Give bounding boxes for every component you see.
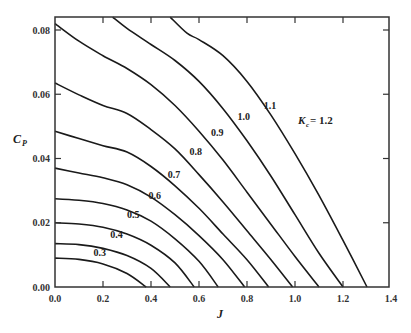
kc-annotation-main: K — [297, 114, 306, 126]
y-axis-title-main: C — [13, 132, 22, 146]
y-tick-label: 0.08 — [33, 25, 51, 36]
curve-label-1-0: 1.0 — [237, 111, 250, 122]
x-tick-label: 0.6 — [193, 293, 206, 304]
curve-label-0-6: 0.6 — [149, 190, 162, 201]
curve-label-1-1: 1.1 — [264, 100, 277, 111]
x-tick-label: 1.0 — [289, 293, 302, 304]
kc-annotation-value: = 1.2 — [310, 114, 333, 126]
contour-chart: 0.30.40.50.60.70.80.91.01.1 0.00.20.40.6… — [0, 0, 411, 333]
kc-annotation-subscript: c — [306, 121, 309, 129]
x-tick-label: 0.4 — [145, 293, 158, 304]
x-tick-label: 0.0 — [49, 293, 62, 304]
chart-background — [0, 0, 411, 333]
x-axis-title: J — [216, 307, 224, 321]
x-tick-label: 1.4 — [385, 293, 398, 304]
curve-label-0-3: 0.3 — [93, 247, 106, 258]
curve-label-0-5: 0.5 — [127, 209, 140, 220]
x-tick-label: 1.2 — [337, 293, 350, 304]
y-axis-title-subscript: P — [22, 139, 27, 148]
y-tick-label: 0.04 — [33, 153, 51, 164]
curve-label-0-7: 0.7 — [168, 169, 181, 180]
curve-label-0-8: 0.8 — [189, 146, 202, 157]
curve-label-0-9: 0.9 — [211, 127, 224, 138]
curve-label-0-4: 0.4 — [110, 229, 123, 240]
y-tick-label: 0.00 — [33, 282, 51, 293]
y-tick-label: 0.02 — [33, 217, 51, 228]
y-tick-label: 0.06 — [33, 89, 51, 100]
x-tick-label: 0.8 — [241, 293, 254, 304]
x-tick-label: 0.2 — [97, 293, 110, 304]
